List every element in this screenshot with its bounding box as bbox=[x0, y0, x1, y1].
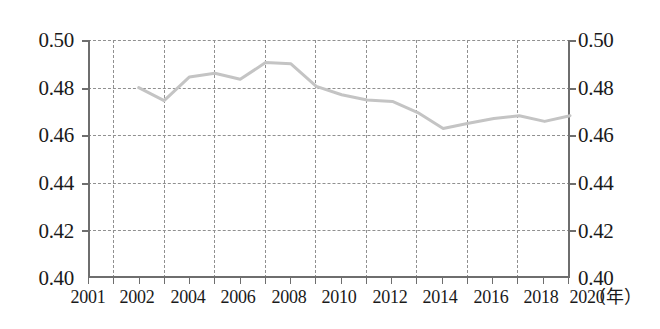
x-tick-2017 bbox=[492, 278, 493, 284]
x-tick-2019 bbox=[543, 278, 544, 284]
x-tick-2002 bbox=[113, 278, 114, 284]
x-tick-2009 bbox=[290, 278, 291, 284]
x-axis-label-2006: 2006 bbox=[213, 288, 263, 306]
x-tick-2014 bbox=[416, 278, 417, 284]
y-axis-left-label-0: 0.50 bbox=[10, 30, 74, 51]
x-axis-label-2012: 2012 bbox=[365, 288, 415, 306]
y-tick-right-0.44 bbox=[570, 183, 576, 185]
y-axis-left-label-4: 0.42 bbox=[10, 221, 74, 242]
y-axis-left-label-2: 0.46 bbox=[10, 125, 74, 146]
x-axis-label-2001: 2001 bbox=[63, 288, 113, 306]
y-axis-right-label-4: 0.42 bbox=[578, 221, 642, 242]
x-tick-2001 bbox=[88, 278, 89, 284]
x-axis-label-2014: 2014 bbox=[415, 288, 465, 306]
plot-area bbox=[88, 40, 570, 278]
y-axis-right-label-1: 0.48 bbox=[578, 78, 642, 99]
x-axis-unit-label: （年） bbox=[588, 288, 642, 306]
x-tick-2018 bbox=[517, 278, 518, 284]
y-axis-right-label-3: 0.44 bbox=[578, 173, 642, 194]
y-axis-left-label-3: 0.44 bbox=[10, 173, 74, 194]
x-tick-2015 bbox=[442, 278, 443, 284]
x-tick-2020 bbox=[568, 278, 569, 284]
x-axis-label-2016: 2016 bbox=[466, 288, 516, 306]
y-tick-right-0.42 bbox=[570, 230, 576, 232]
y-axis-right-label-2: 0.46 bbox=[578, 125, 642, 146]
x-tick-2010 bbox=[315, 278, 316, 284]
x-tick-2003 bbox=[139, 278, 140, 284]
x-axis-label-2002: 2002 bbox=[112, 288, 162, 306]
x-axis-label-2004: 2004 bbox=[163, 288, 213, 306]
x-axis-label-2010: 2010 bbox=[314, 288, 364, 306]
line-chart: 0.50 0.48 0.46 0.44 0.42 0.40 0.50 0.48 … bbox=[0, 0, 660, 329]
x-tick-2005 bbox=[189, 278, 190, 284]
x-axis-label-2008: 2008 bbox=[264, 288, 314, 306]
y-tick-right-0.46 bbox=[570, 135, 576, 137]
y-tick-right-0.50 bbox=[570, 40, 576, 42]
x-tick-2007 bbox=[240, 278, 241, 284]
data-line-series-1 bbox=[139, 63, 570, 129]
y-axis-right-label-0: 0.50 bbox=[578, 30, 642, 51]
series-layer bbox=[88, 40, 570, 278]
y-axis-right-label-5: 0.40 bbox=[578, 268, 642, 289]
x-tick-2008 bbox=[265, 278, 266, 284]
x-axis-label-2018: 2018 bbox=[516, 288, 566, 306]
x-tick-2016 bbox=[467, 278, 468, 284]
y-tick-right-0.48 bbox=[570, 88, 576, 90]
x-tick-2011 bbox=[341, 278, 342, 284]
x-tick-2013 bbox=[391, 278, 392, 284]
y-axis-left-label-1: 0.48 bbox=[10, 78, 74, 99]
y-axis-left-label-5: 0.40 bbox=[10, 268, 74, 289]
x-tick-2006 bbox=[214, 278, 215, 284]
x-tick-2004 bbox=[164, 278, 165, 284]
x-tick-2012 bbox=[366, 278, 367, 284]
